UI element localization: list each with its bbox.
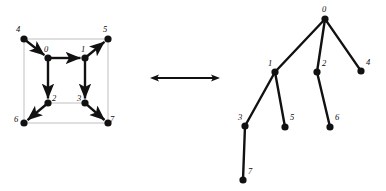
tree-vertex-label-4: 4 xyxy=(366,57,371,67)
tree-vertex-1 xyxy=(271,68,278,75)
tree-vertex-6 xyxy=(326,123,333,130)
cube-vertex-0 xyxy=(44,54,51,61)
cube-edge-1-to-5 xyxy=(87,42,105,57)
cube-vertex-3 xyxy=(81,99,88,106)
cube-vertex-label-3: 3 xyxy=(76,93,81,103)
tree-edge-1-3 xyxy=(246,74,274,125)
tree-vertex-label-0: 0 xyxy=(322,4,327,14)
cube-graph: 01234567 xyxy=(14,24,115,127)
cube-edge-3-to-7 xyxy=(87,105,105,120)
cube-directed-edges xyxy=(26,40,105,120)
tree-vertex-7 xyxy=(239,176,246,183)
tree-vertex-4 xyxy=(357,67,364,74)
tree-vertex-3 xyxy=(241,122,248,129)
diagram-canvas: 01234567 01243567 xyxy=(0,0,386,191)
cube-vertex-label-5: 5 xyxy=(103,24,107,34)
tree-vertex-0 xyxy=(321,15,328,22)
cube-vertex-label-4: 4 xyxy=(16,24,21,34)
cube-vertex-1 xyxy=(81,54,88,61)
cube-vertex-label-1: 1 xyxy=(81,44,85,54)
cube-edge-2-to-6 xyxy=(28,105,47,121)
tree-vertex-label-6: 6 xyxy=(335,112,340,122)
tree-edge-2-6 xyxy=(317,74,329,125)
tree-vertex-5 xyxy=(281,123,288,130)
cube-vertex-4 xyxy=(20,35,27,42)
tree-vertex-label-7: 7 xyxy=(248,166,253,176)
cube-vertex-2 xyxy=(44,99,51,106)
tree-edge-0-4 xyxy=(326,21,360,70)
cube-edge-4-to-0 xyxy=(26,40,45,55)
tree-edge-3-7 xyxy=(243,128,245,178)
tree-edges xyxy=(243,20,360,178)
tree-vertex-2 xyxy=(313,68,320,75)
tree-vertices xyxy=(239,15,364,183)
tree-vertex-label-3: 3 xyxy=(237,112,242,122)
figure-container: 01234567 01243567 xyxy=(0,0,386,191)
cube-vertex-label-2: 2 xyxy=(52,93,57,103)
spanning-tree: 01243567 xyxy=(237,4,371,184)
cube-frame-edges xyxy=(24,39,108,123)
tree-vertex-label-5: 5 xyxy=(290,112,294,122)
tree-vertex-label-1: 1 xyxy=(268,58,272,68)
cube-vertex-label-6: 6 xyxy=(14,114,19,124)
cube-vertex-label-0: 0 xyxy=(44,44,49,54)
tree-vertex-label-2: 2 xyxy=(322,58,327,68)
tree-edge-1-5 xyxy=(275,74,284,125)
cube-vertex-6 xyxy=(20,119,27,126)
cube-vertex-5 xyxy=(104,35,111,42)
tree-edge-0-1 xyxy=(276,20,323,70)
tree-vertex-labels: 01243567 xyxy=(237,4,371,176)
cube-vertex-label-7: 7 xyxy=(110,114,115,124)
equivalence-arrow xyxy=(150,74,220,81)
